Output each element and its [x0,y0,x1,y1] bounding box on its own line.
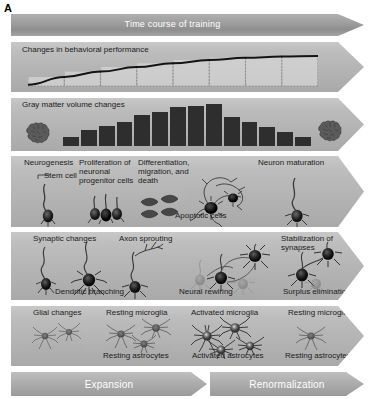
band-neurogenesis: Neurogenesis Stem cell Proliferation of … [11,156,364,227]
stem-cell-glyph [38,175,55,227]
gray-matter-bar [134,115,150,146]
differentiation-label: Differentiation, migration, and death [138,159,189,186]
gray-matter-bar [63,137,79,146]
neural-rewiring-label: Neural rewiring [179,288,233,297]
learning-curve-point [136,66,138,68]
phase-renormalization-label: Renormalization [249,379,324,390]
time-course-title: Time course of training [11,19,334,29]
axon-sprouting-glyph [122,242,163,299]
resting-glia-glyph [106,319,171,353]
mature-neuron-glyph [285,178,309,227]
band-gray-matter: Gray matter volume changes [11,98,364,151]
learning-curve-point [63,76,65,78]
band-time-course: Time course of training [11,14,364,36]
learning-curve-point [100,71,102,73]
band-glial-changes: Glial changes Resting microglia Activate… [11,306,364,366]
learning-curve-point [208,59,210,61]
phase-expansion: Expansion [11,372,207,396]
gray-matter-bar [242,122,258,146]
proliferation-label: Proliferation of neuronal progenitor cel… [79,159,133,186]
resting-astrocytes-label-1: Resting astrocytes [103,352,169,361]
phase-renormalization: Renormalization [210,372,364,396]
behavior-band-inner: Changes in behavioral performance [11,42,364,92]
band-synaptic-changes: Synaptic changes Axon sprouting Stabiliz… [11,232,364,300]
brain-icon [317,120,345,142]
brain-icon [25,122,53,144]
curve-panel [246,57,281,86]
gray-matter-bar [224,117,240,146]
phase-expansion-label: Expansion [85,379,134,390]
resting-microglia-label-2: Resting microglia [288,309,349,318]
panel-letter: A [4,2,12,14]
neurogenesis-row-title: Neurogenesis [24,159,73,168]
neuron-maturation-label: Neuron maturation [258,159,324,168]
curve-panel [210,58,245,86]
band-behavioral-performance: Changes in behavioral performance [11,42,364,92]
gray-matter-bar [206,104,222,146]
axon-sprouting-label: Axon sprouting [119,235,172,244]
gray-matter-bar [295,137,311,146]
gray-matter-bar [277,132,293,146]
behavior-learning-curve-chart [28,52,318,88]
resting-astrocytes-label-2: Resting astrocytes [285,352,351,361]
gray-matter-bar [152,112,168,146]
activated-astrocytes-label: Activated astrocytes [192,352,264,361]
migrating-cells-glyph [141,195,178,218]
learning-curve-point [172,62,174,64]
gray-matter-bar [259,127,275,146]
gray-matter-bar-chart [63,104,311,146]
gray-matter-bar [99,126,115,146]
activated-microglia-label: Activated microglia [191,309,258,318]
curve-panel [282,56,317,86]
phase-row: Expansion Renormalization [11,372,364,396]
learning-curve-point [245,57,247,59]
figure-panel-a: A Time course of training Changes in beh… [0,0,371,399]
surplus-elimination-label: Surplus elimination [283,288,351,297]
gray-matter-bar [188,106,204,146]
stem-cell-label: Stem cell [44,172,77,181]
synaptic-row-title: Synaptic changes [33,235,96,244]
glial-row-title: Glial changes [33,309,81,318]
gray-matter-bar [170,107,186,146]
gray-matter-bar [117,122,133,146]
resting-microglia-label-1: Resting microglia [106,309,167,318]
stabilization-label: Stabilization of synapses [281,235,333,253]
learning-curve-point [281,56,283,58]
renormalized-glia-glyph [296,327,326,350]
apoptotic-cells-label: Apoptotic cells [175,212,227,221]
dendritic-branching-label: Dendritic branching [55,288,124,297]
baseline-glia-glyph [32,323,81,349]
simple-neuron-glyph [36,247,56,295]
progenitor-cells-glyph [88,194,124,224]
gray-matter-bar [81,130,97,146]
gray-band-inner: Gray matter volume changes [11,98,364,151]
